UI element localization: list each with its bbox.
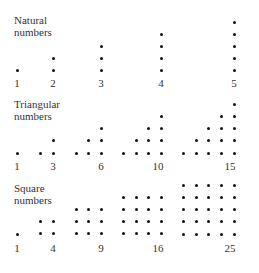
dot [75,152,78,155]
dot [147,196,150,199]
dot [182,152,185,155]
dot [87,208,90,211]
title-line-2: numbers [14,194,52,206]
dot [135,208,138,211]
dot [233,233,236,236]
triangular-numbers-label: 3 [50,160,56,172]
dot [100,139,103,142]
dot [220,220,223,223]
natural-numbers-label: 3 [98,77,104,89]
dot [147,127,150,130]
dot [233,33,236,36]
dot [100,127,103,130]
square-numbers-label: 9 [98,242,104,254]
dot [233,184,236,187]
natural-numbers-label: 5 [231,77,237,89]
dot [160,196,163,199]
dot [182,208,185,211]
dot [220,152,223,155]
dot [233,208,236,211]
dot [195,220,198,223]
dot [75,208,78,211]
dot [75,220,78,223]
title-line-2: numbers [14,26,52,38]
dot [220,196,223,199]
dot [39,220,42,223]
natural-numbers-title: Naturalnumbers [14,14,52,38]
dot [207,233,210,236]
dot [52,139,55,142]
dot [100,232,103,235]
dot [207,152,210,155]
dot [100,208,103,211]
dot [207,184,210,187]
dot [52,220,55,223]
dot [160,232,163,235]
dot [233,127,236,130]
dot [135,139,138,142]
dot [207,220,210,223]
dot [160,115,163,118]
dot [233,220,236,223]
dot [233,152,236,155]
dot [160,208,163,211]
dot [233,45,236,48]
dot [182,220,185,223]
dot [122,208,125,211]
dot [182,196,185,199]
dot [52,69,55,72]
dot [207,208,210,211]
dot [207,127,210,130]
dot [147,152,150,155]
natural-numbers-label: 1 [14,77,20,89]
dot [220,127,223,130]
dot [160,33,163,36]
dot [52,57,55,60]
dot [87,139,90,142]
square-numbers-title: Squarenumbers [14,182,52,206]
dot [195,139,198,142]
dot [160,220,163,223]
dot [39,232,42,235]
dot [195,208,198,211]
title-line-1: Triangular [14,98,60,110]
dot [233,69,236,72]
triangular-numbers-label: 6 [98,160,104,172]
dot [233,196,236,199]
dot [233,21,236,24]
dot [195,184,198,187]
dot [182,233,185,236]
dot [220,208,223,211]
title-line-2: numbers [14,110,60,122]
dot [160,152,163,155]
dot [100,69,103,72]
square-numbers-label: 25 [225,242,236,254]
dot [233,139,236,142]
title-line-1: Natural [14,14,52,26]
dot [122,232,125,235]
dot [87,220,90,223]
dot [147,139,150,142]
square-numbers-label: 1 [14,242,20,254]
dot [122,196,125,199]
dot [195,152,198,155]
dot [135,152,138,155]
dot [220,139,223,142]
dot [195,233,198,236]
dot [147,208,150,211]
dot [75,232,78,235]
dot [160,45,163,48]
dot [135,232,138,235]
dot [100,57,103,60]
triangular-numbers-label: 15 [225,160,236,172]
natural-numbers-label: 2 [50,77,56,89]
dot [16,152,19,155]
dot [233,103,236,106]
dot [207,196,210,199]
dot [160,69,163,72]
triangular-numbers-title: Triangularnumbers [14,98,60,122]
square-numbers-label: 4 [50,242,56,254]
dot [135,220,138,223]
dot [220,233,223,236]
natural-numbers-label: 4 [158,77,164,89]
